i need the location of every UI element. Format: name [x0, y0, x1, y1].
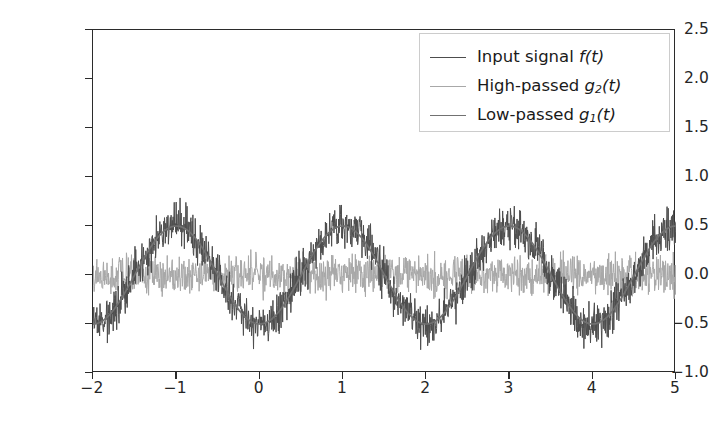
x-tick-mark: [92, 372, 93, 379]
legend-entry-1[interactable]: High-passed g2(t): [430, 72, 658, 101]
x-tick-mark: [508, 372, 509, 379]
y-tick-mark: [85, 176, 92, 177]
x-tick-mark: [259, 372, 260, 379]
y-tick-mark: [85, 274, 92, 275]
x-tick-mark: [592, 372, 593, 379]
legend-entry-2[interactable]: Low-passed g1(t): [430, 101, 658, 130]
x-tick-label: −2: [81, 379, 104, 397]
x-tick-label: 4: [587, 379, 597, 397]
x-tick-label: 1: [337, 379, 347, 397]
legend-line-swatch: [430, 115, 466, 116]
y-tick-mark: [85, 78, 92, 79]
y-tick-mark: [85, 29, 92, 30]
x-tick-mark: [425, 372, 426, 379]
legend-entry-label: High-passed g2(t): [477, 78, 621, 95]
y-tick-mark: [85, 372, 92, 373]
x-tick-label: 0: [254, 379, 264, 397]
legend-line-swatch: [430, 57, 466, 58]
x-tick-label: 3: [503, 379, 513, 397]
legend-entry-label: Low-passed g1(t): [477, 107, 616, 124]
x-tick-mark: [342, 372, 343, 379]
y-tick-mark: [85, 225, 92, 226]
x-tick-label: 5: [670, 379, 680, 397]
chart-figure: −1.0−0.50.00.51.01.52.02.5 −2−1012345 In…: [0, 0, 709, 423]
legend-entry-label: Input signal f(t): [477, 49, 604, 66]
x-tick-label: −1: [164, 379, 187, 397]
y-tick-mark: [85, 127, 92, 128]
x-tick-label: 2: [420, 379, 430, 397]
y-tick-mark: [85, 323, 92, 324]
legend-entry-0[interactable]: Input signal f(t): [430, 43, 658, 72]
legend-line-swatch: [430, 86, 466, 87]
chart-legend: Input signal f(t)High-passed g2(t)Low-pa…: [419, 33, 670, 132]
x-tick-mark: [175, 372, 176, 379]
x-tick-mark: [675, 372, 676, 379]
